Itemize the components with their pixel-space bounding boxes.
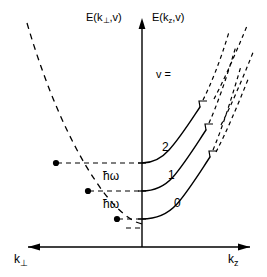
diagram-canvas [0, 0, 267, 277]
arrowhead-right [238, 243, 250, 250]
termination-brackets [199, 101, 217, 157]
dash-cont-a [203, 32, 229, 100]
tie-lines [57, 163, 144, 228]
axis-label-k-perp: k⊥ [14, 253, 28, 268]
axis-label-k-z: kz [228, 253, 239, 268]
vertical-axis [139, 18, 146, 247]
dash-cont-b [209, 46, 236, 123]
dashed-continuations [203, 26, 254, 152]
gap-label-lower: ħω [103, 198, 119, 210]
bracket-v1 [205, 124, 213, 130]
left-dashed-parabola [27, 23, 142, 224]
arrowhead-left [28, 243, 40, 250]
bracket-v0 [209, 151, 217, 157]
level-label-0: 0 [174, 197, 181, 209]
quantum-number-header: v = [156, 69, 171, 80]
dot-v2 [53, 160, 59, 166]
arrowhead-up [139, 18, 146, 29]
level-label-1: 1 [168, 169, 175, 181]
dot-v0 [114, 216, 120, 222]
gap-label-upper: ħω [103, 170, 119, 182]
band-structure-figure: E(k⊥,v) E(kz,v) v = 2 1 0 ħω ħω k⊥ kz [0, 0, 267, 277]
axis-label-energy-z: E(kz,v) [152, 12, 184, 25]
horizontal-axis [28, 243, 250, 250]
curve-v2 [142, 107, 200, 163]
bracket-v2 [199, 101, 207, 107]
dot-v1 [85, 188, 91, 194]
axis-label-energy-perp: E(k⊥,v) [86, 12, 122, 25]
level-label-2: 2 [162, 141, 169, 153]
dash-cont-d [216, 77, 249, 152]
